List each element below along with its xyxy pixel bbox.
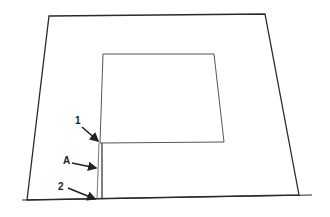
label-a: A [63,155,70,166]
arrow-2-icon [68,188,95,199]
label-2-group: 2 [58,181,95,199]
label-1-group: 1 [75,115,98,141]
label-2: 2 [58,181,64,192]
inner-square [100,54,224,143]
arrow-1-icon [82,127,98,141]
diagram-canvas: 1 A 2 [0,0,330,217]
arrow-a-icon [72,163,96,168]
left-edge-extension-line [97,143,99,199]
label-1: 1 [75,115,81,126]
label-a-group: A [63,155,96,168]
outer-panel [27,14,299,200]
